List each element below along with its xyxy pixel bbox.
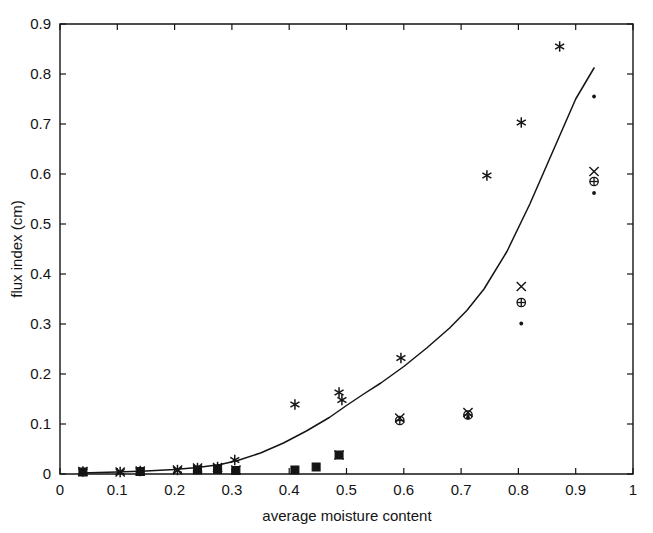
- marker-square: [312, 463, 320, 471]
- x-tick-label: 1: [629, 481, 637, 498]
- series-circle-plus: [396, 177, 599, 424]
- x-axis-tick-labels: 00.10.20.30.40.50.60.70.80.91: [56, 481, 637, 498]
- y-tick-label: 0.8: [30, 65, 51, 82]
- x-tick-label: 0.3: [221, 481, 242, 498]
- x-tick-label: 0: [56, 481, 64, 498]
- x-tick-label: 0.4: [279, 481, 300, 498]
- y-tick-label: 0.2: [30, 365, 51, 382]
- y-tick-label: 0.6: [30, 165, 51, 182]
- y-tick-label: 0.3: [30, 315, 51, 332]
- plot-border: [60, 24, 633, 474]
- y-tick-label: 0.9: [30, 15, 51, 32]
- x-tick-label: 0.6: [393, 481, 414, 498]
- series-asterisk: [78, 41, 564, 477]
- x-axis-title: average moisture content: [262, 507, 432, 524]
- x-tick-label: 0.2: [164, 481, 185, 498]
- marker-square: [214, 466, 222, 474]
- series-dot: [466, 95, 596, 420]
- x-tick-label: 0.7: [451, 481, 472, 498]
- x-tick-label: 0.5: [336, 481, 357, 498]
- y-tick-label: 0.5: [30, 215, 51, 232]
- marker-square: [291, 466, 299, 474]
- y-tick-label: 0: [43, 465, 51, 482]
- y-axis-tick-labels: 00.10.20.30.40.50.60.70.80.9: [30, 15, 51, 482]
- marker-dot: [466, 416, 470, 420]
- scatter-plot: 00.10.20.30.40.50.60.70.80.91 00.10.20.3…: [0, 0, 653, 533]
- tick-marks: [60, 24, 633, 474]
- marker-square: [232, 467, 240, 475]
- x-tick-label: 0.9: [565, 481, 586, 498]
- chart-figure: 00.10.20.30.40.50.60.70.80.91 00.10.20.3…: [0, 0, 653, 533]
- y-tick-label: 0.7: [30, 115, 51, 132]
- x-tick-label: 0.8: [508, 481, 529, 498]
- fit-curve-layer: [80, 68, 594, 473]
- marker-square: [335, 451, 343, 459]
- y-axis-title: flux index (cm): [8, 200, 25, 298]
- marker-dot: [592, 95, 596, 99]
- fit-curve-line: [80, 68, 594, 473]
- y-tick-label: 0.1: [30, 415, 51, 432]
- marker-dot: [519, 322, 523, 326]
- y-tick-label: 0.4: [30, 265, 51, 282]
- marker-dot: [592, 191, 596, 195]
- marker-square: [79, 468, 87, 476]
- axis-frame: [60, 24, 633, 474]
- x-tick-label: 0.1: [107, 481, 128, 498]
